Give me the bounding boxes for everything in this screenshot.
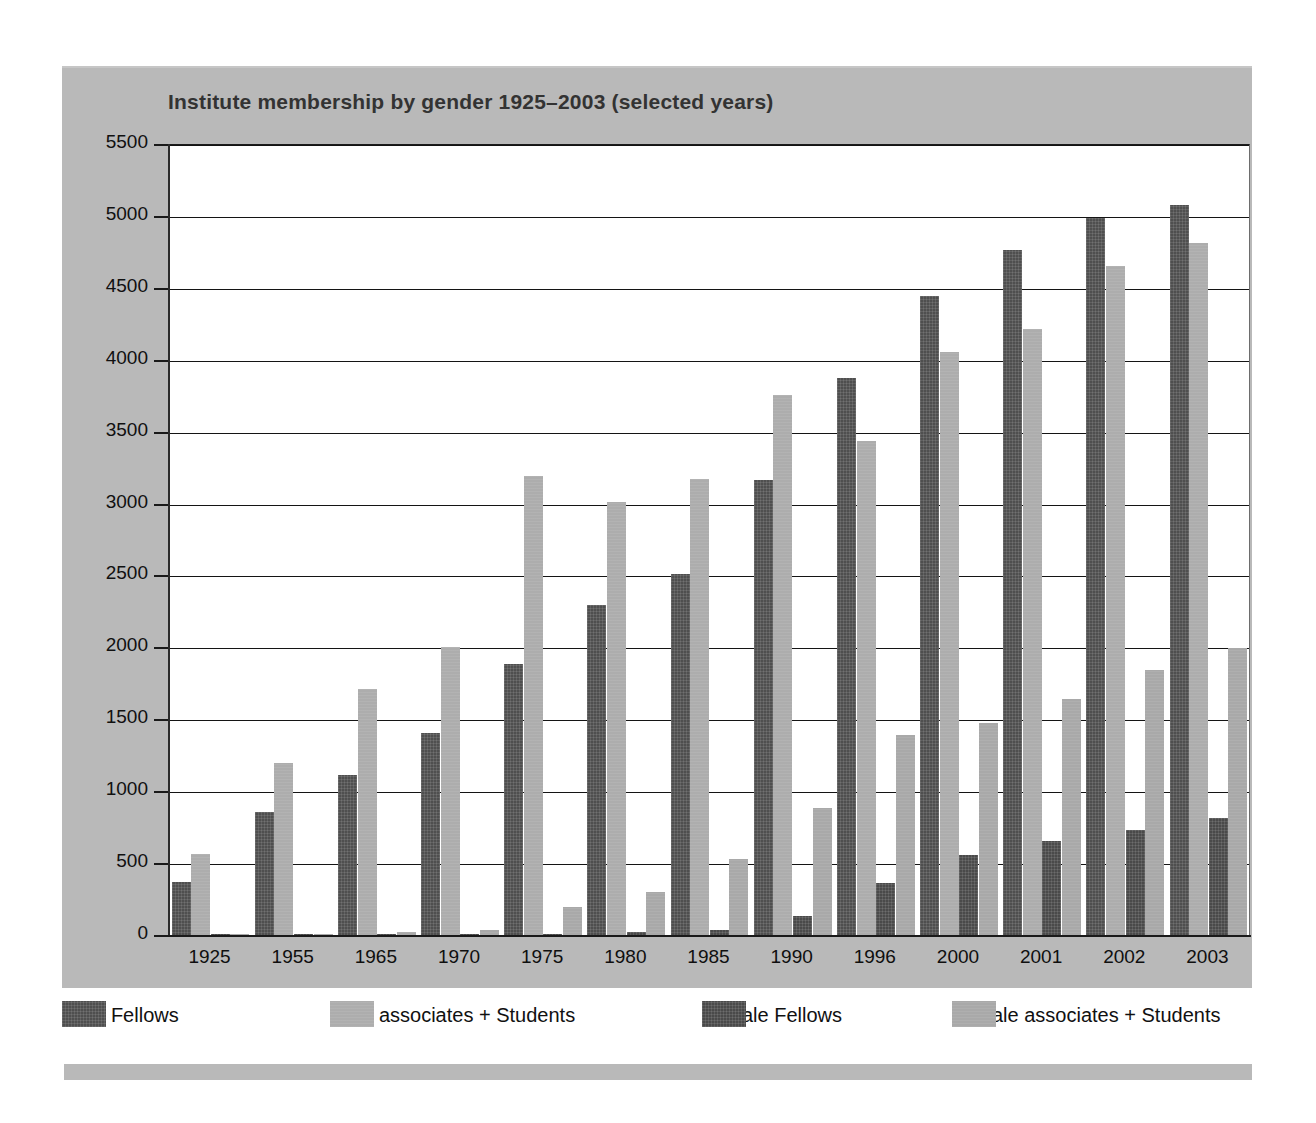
bar: [421, 733, 440, 936]
bar: [896, 735, 915, 936]
legend-item[interactable]: Female Fellows: [702, 1004, 842, 1027]
bar: [1106, 266, 1125, 936]
x-axis-tick-label: 1985: [667, 946, 751, 968]
y-tick-mark: [154, 216, 168, 218]
legend-swatch-icon: [330, 1001, 374, 1027]
bar: [773, 395, 792, 936]
x-axis-tick-label: 1925: [168, 946, 252, 968]
legend-item[interactable]: Male associates + Students: [330, 1004, 575, 1027]
y-axis-tick-label: 4000: [62, 347, 148, 369]
y-tick-mark: [154, 432, 168, 434]
bar: [646, 892, 665, 936]
x-axis-tick-label: 2000: [916, 946, 1000, 968]
x-axis-tick-label: 1965: [334, 946, 418, 968]
bar: [441, 647, 460, 936]
y-tick-mark: [154, 647, 168, 649]
y-axis-tick-label: 2500: [62, 562, 148, 584]
bar: [563, 907, 582, 936]
bar: [754, 480, 773, 936]
bar: [1023, 329, 1042, 936]
bar: [504, 664, 523, 936]
chart-title: Institute membership by gender 1925–2003…: [168, 90, 774, 114]
x-axis-line: [168, 935, 1251, 937]
bar: [587, 605, 606, 936]
bar: [876, 883, 895, 936]
bar: [358, 689, 377, 936]
legend-swatch-icon: [702, 1001, 746, 1027]
bar: [274, 763, 293, 936]
bar: [1042, 841, 1061, 936]
y-tick-mark: [154, 288, 168, 290]
bar: [940, 352, 959, 936]
y-tick-mark: [154, 575, 168, 577]
x-axis-tick-label: 2002: [1082, 946, 1166, 968]
y-axis-tick-label: 3500: [62, 418, 148, 440]
x-axis-tick-label: 2003: [1165, 946, 1249, 968]
bar: [920, 296, 939, 936]
bar: [524, 476, 543, 936]
y-tick-mark: [154, 791, 168, 793]
legend-item[interactable]: Female associates + Students: [952, 1004, 1220, 1027]
x-axis-tick-label: 1990: [750, 946, 834, 968]
bar: [813, 808, 832, 936]
legend-swatch-icon: [952, 1001, 996, 1027]
y-tick-mark: [154, 935, 168, 937]
bar: [607, 502, 626, 936]
y-tick-mark: [154, 863, 168, 865]
chart-figure: Institute membership by gender 1925–2003…: [62, 66, 1252, 1051]
bar: [172, 882, 191, 936]
bar: [1003, 250, 1022, 936]
y-axis-tick-label: 2000: [62, 634, 148, 656]
bar: [1209, 818, 1228, 936]
bar: [1170, 205, 1189, 936]
x-axis-tick-label: 1975: [500, 946, 584, 968]
bar: [338, 775, 357, 936]
bar: [959, 855, 978, 936]
y-axis-tick-label: 500: [62, 850, 148, 872]
bar: [1189, 243, 1208, 936]
y-tick-mark: [154, 144, 168, 146]
bar: [191, 854, 210, 936]
bar: [1228, 648, 1247, 936]
y-axis-tick-label: 4500: [62, 275, 148, 297]
y-axis-tick-label: 1500: [62, 706, 148, 728]
x-axis-tick-label: 1970: [417, 946, 501, 968]
bar: [1126, 830, 1145, 936]
x-axis-tick-label: 1955: [251, 946, 335, 968]
bar: [857, 441, 876, 936]
y-tick-mark: [154, 719, 168, 721]
legend-item[interactable]: Male Fellows: [62, 1004, 179, 1027]
y-axis-tick-label: 1000: [62, 778, 148, 800]
bar: [1062, 699, 1081, 936]
y-axis-tick-label: 5500: [62, 131, 148, 153]
bar: [671, 574, 690, 936]
x-axis-tick-label: 2001: [999, 946, 1083, 968]
y-axis-tick-label: 5000: [62, 203, 148, 225]
x-axis-tick-label: 1996: [833, 946, 917, 968]
y-axis-tick-label: 3000: [62, 490, 148, 512]
chart-legend: Male FellowsMale associates + StudentsFe…: [62, 1004, 1252, 1038]
bar: [729, 859, 748, 936]
footer-rule: [64, 1064, 1252, 1080]
bar: [1086, 218, 1105, 936]
x-axis-tick-label: 1980: [583, 946, 667, 968]
bar: [1145, 670, 1164, 936]
y-tick-mark: [154, 504, 168, 506]
y-axis-line: [168, 144, 170, 937]
gridline: [168, 145, 1249, 146]
legend-swatch-icon: [62, 1001, 106, 1027]
plot-area: [168, 144, 1250, 936]
bar: [793, 916, 812, 936]
y-tick-mark: [154, 360, 168, 362]
bar: [255, 812, 274, 936]
bar: [837, 378, 856, 936]
y-axis-tick-label: 0: [62, 922, 148, 944]
bar: [979, 723, 998, 936]
bar: [690, 479, 709, 936]
